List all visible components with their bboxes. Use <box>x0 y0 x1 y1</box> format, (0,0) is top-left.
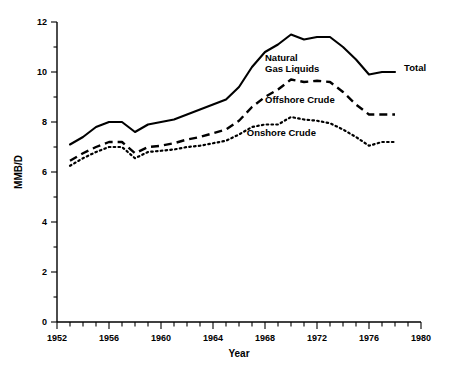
annotation-total: Total <box>404 62 426 73</box>
x-tick-label-1956: 1956 <box>99 333 119 343</box>
y-tick-label-2: 2 <box>42 267 47 277</box>
x-tick-label-1964: 1964 <box>203 333 223 343</box>
line-chart: 024681012 195219561960196419681972197619… <box>0 0 449 377</box>
annotation-onshore-crude: Onshore Crude <box>247 127 316 138</box>
x-tick-label-1960: 1960 <box>151 333 171 343</box>
series-line-offshore-crude <box>70 80 395 161</box>
y-axis-major-ticks <box>51 22 57 322</box>
x-tick-label-1980: 1980 <box>411 333 431 343</box>
annotation-natural-gas-liquids-line2: Gas Liquids <box>265 63 319 74</box>
y-axis: 024681012 <box>37 17 57 327</box>
x-tick-label-1968: 1968 <box>255 333 275 343</box>
y-tick-label-6: 6 <box>42 167 47 177</box>
y-tick-label-4: 4 <box>42 217 47 227</box>
y-tick-label-12: 12 <box>37 17 47 27</box>
data-series-group <box>70 35 395 166</box>
x-axis-title: Year <box>228 348 249 359</box>
y-axis-tick-labels: 024681012 <box>37 17 47 327</box>
y-axis-title: MMB/D <box>13 155 24 189</box>
x-axis-tick-labels: 19521956196019641968197219761980 <box>47 333 431 343</box>
chart-container: 024681012 195219561960196419681972197619… <box>0 0 449 377</box>
y-tick-label-10: 10 <box>37 67 47 77</box>
series-line-total <box>70 35 395 145</box>
annotation-offshore-crude: Offshore Crude <box>265 94 335 105</box>
x-axis: 19521956196019641968197219761980 <box>47 322 431 343</box>
y-tick-label-8: 8 <box>42 117 47 127</box>
x-tick-label-1972: 1972 <box>307 333 327 343</box>
x-tick-label-1952: 1952 <box>47 333 67 343</box>
x-tick-label-1976: 1976 <box>359 333 379 343</box>
annotation-natural-gas-liquids-line1: Natural <box>265 52 298 63</box>
y-tick-label-0: 0 <box>42 317 47 327</box>
